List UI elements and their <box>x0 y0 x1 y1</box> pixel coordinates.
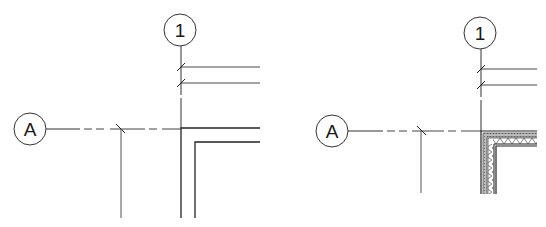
grid-bubble-a-right[interactable]: A <box>316 115 348 147</box>
layered-wall-right[interactable] <box>481 131 537 194</box>
insulation-hatch <box>493 138 537 144</box>
insulation-hatch <box>488 144 494 194</box>
grid-bubble-1-right[interactable]: 1 <box>464 17 496 49</box>
wall-inner-line-left[interactable] <box>195 142 260 218</box>
grid-bubble-1-left[interactable]: 1 <box>164 14 196 46</box>
drawing-canvas: 1 A 1 <box>0 0 546 227</box>
grid-label-1-left: 1 <box>175 20 186 41</box>
grid-bubble-a-left[interactable]: A <box>14 113 46 145</box>
grid-label-1-right: 1 <box>475 23 486 44</box>
left-panel: 1 A <box>14 14 260 218</box>
grid-label-a-left: A <box>24 119 37 140</box>
right-panel: 1 A <box>316 17 537 194</box>
grid-label-a-right: A <box>326 121 339 142</box>
